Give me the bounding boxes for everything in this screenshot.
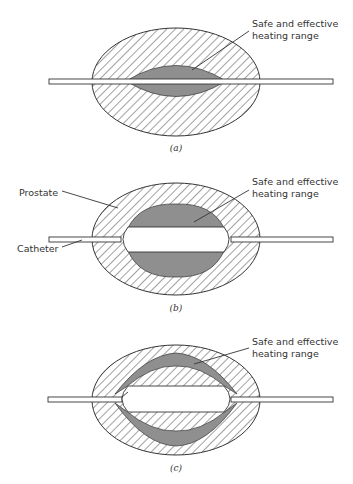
catheter-left: [48, 397, 122, 402]
caption-a: (a): [170, 143, 183, 153]
prostate-heating-diagram: Safe and effective heating range (a) Pro…: [0, 0, 353, 484]
prostate-label: Prostate: [19, 187, 58, 198]
catheter-right: [231, 237, 333, 242]
panel-a: Safe and effective heating range (a): [49, 18, 338, 153]
heating-label-line2: heating range: [252, 348, 319, 359]
panel-c: Safe and effective heating range (c): [48, 336, 338, 473]
catheter-balloon: [122, 386, 230, 412]
heating-label-line1: Safe and effective: [252, 336, 338, 347]
caption-b: (b): [170, 303, 183, 313]
catheter-balloon: [123, 227, 229, 252]
heating-label-line1: Safe and effective: [252, 18, 338, 29]
catheter: [49, 79, 333, 84]
caption-c: (c): [170, 463, 183, 473]
heating-label-line2: heating range: [252, 188, 319, 199]
heating-label-line2: heating range: [252, 30, 319, 41]
heating-label-line1: Safe and effective: [252, 176, 338, 187]
catheter-right: [231, 397, 333, 402]
prostate-leader-line: [62, 191, 118, 208]
panel-b: Prostate Catheter Safe and effective hea…: [17, 176, 338, 313]
catheter-left: [49, 237, 121, 242]
catheter-label: Catheter: [17, 243, 59, 254]
